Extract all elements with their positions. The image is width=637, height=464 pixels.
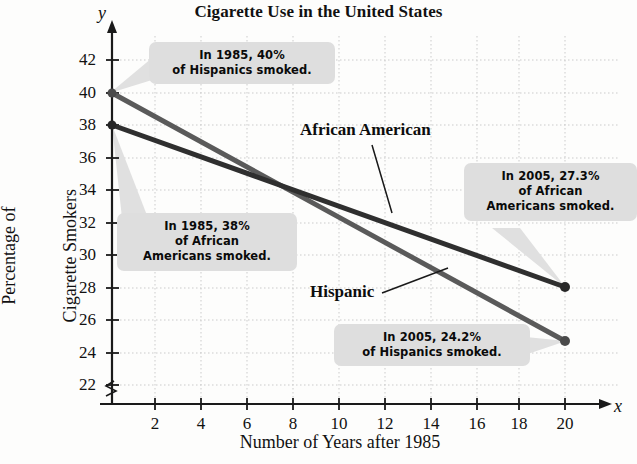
x-tick-label: 18: [506, 414, 532, 434]
callout-tail-hispanic-1985: [110, 58, 152, 93]
annotation-line: In 1985, 40%: [158, 48, 326, 63]
chart-container: Cigarette Use in the United States y x 4…: [0, 0, 637, 464]
annotation-african-american-2005: In 2005, 27.3% of African Americans smok…: [464, 163, 637, 221]
series-label-african-american: African American: [300, 120, 431, 140]
x-axis-title: Number of Years after 1985: [90, 432, 590, 453]
annotation-line: Americans smoked.: [126, 249, 288, 264]
x-tick-label: 4: [188, 414, 214, 434]
series-point-hispanic-start: [108, 89, 117, 98]
annotation-hispanic-1985: In 1985, 40% of Hispanics smoked.: [149, 42, 335, 84]
y-tick-label: 38: [68, 115, 96, 135]
axis-break-icon: [106, 381, 116, 396]
annotation-line: In 2005, 24.2%: [343, 330, 521, 345]
y-tick-label: 22: [68, 375, 96, 395]
x-tick-label: 14: [418, 414, 444, 434]
x-axis-arrowhead: [599, 399, 612, 409]
x-tick-label: 10: [326, 414, 352, 434]
chart-title: Cigarette Use in the United States: [0, 2, 637, 22]
series-point-african-american-start: [108, 121, 117, 130]
x-tick-label: 16: [464, 414, 490, 434]
series-label-hispanic: Hispanic: [310, 282, 374, 302]
y-axis-title-line1: Percentage of: [0, 156, 20, 356]
annotation-line: of Hispanics smoked.: [343, 345, 521, 360]
x-tick-label: 12: [372, 414, 398, 434]
y-axis-letter: y: [98, 3, 106, 24]
y-axis-title: Percentage of Cigarette Smokers: [0, 156, 121, 356]
leader-line-african-american: [372, 145, 392, 213]
annotation-line: Americans smoked.: [473, 199, 628, 214]
y-axis-title-line2: Cigarette Smokers: [60, 156, 80, 356]
annotation-line: of Hispanics smoked.: [158, 63, 326, 78]
y-tick-label: 40: [68, 83, 96, 103]
leader-line-hispanic: [382, 268, 448, 293]
annotation-hispanic-2005: In 2005, 24.2% of Hispanics smoked.: [334, 324, 530, 366]
x-tick-label: 20: [552, 414, 578, 434]
y-tick-label: 42: [68, 50, 96, 70]
annotation-african-american-1985: In 1985, 38% of African Americans smoked…: [117, 213, 297, 271]
annotation-line: of African: [473, 184, 628, 199]
series-point-african-american-end: [560, 282, 570, 292]
callout-tail-aa-2005: [492, 228, 566, 288]
annotation-line: of African: [126, 234, 288, 249]
annotation-line: In 2005, 27.3%: [473, 169, 628, 184]
annotation-line: In 1985, 38%: [126, 219, 288, 234]
series-point-hispanic-end: [560, 336, 570, 346]
x-tick-label: 2: [142, 414, 168, 434]
x-tick-label: 6: [234, 414, 260, 434]
x-tick-label: 8: [280, 414, 306, 434]
x-axis-letter: x: [614, 396, 622, 417]
